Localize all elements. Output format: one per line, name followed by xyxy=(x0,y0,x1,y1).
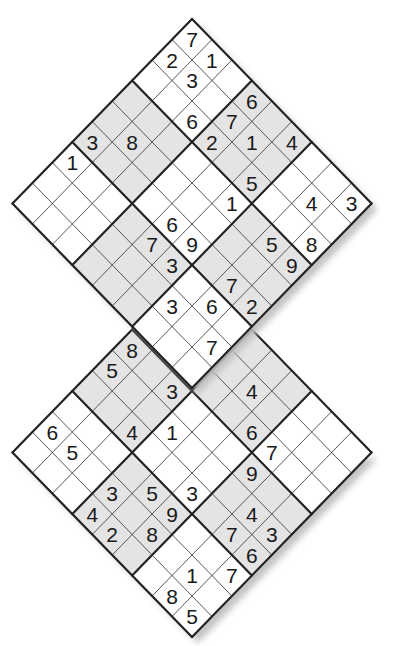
given-digit: 9 xyxy=(286,254,298,277)
given-digit: 5 xyxy=(106,359,118,382)
given-digit: 7 xyxy=(226,523,238,546)
given-digit: 3 xyxy=(166,380,178,403)
given-digit: 8 xyxy=(146,523,158,546)
given-digit: 1 xyxy=(226,192,238,215)
given-digit: 8 xyxy=(306,233,318,256)
given-digit: 4 xyxy=(306,192,318,215)
given-digit: 8 xyxy=(166,585,178,608)
given-digit: 6 xyxy=(246,544,258,567)
given-digit: 3 xyxy=(166,295,178,318)
given-digit: 7 xyxy=(146,233,158,256)
given-digit: 3 xyxy=(186,482,198,505)
given-digit: 5 xyxy=(186,605,198,628)
given-digit: 6 xyxy=(206,295,218,318)
given-digit: 4 xyxy=(246,380,258,403)
given-digit: 9 xyxy=(166,503,178,526)
given-digit: 2 xyxy=(106,523,118,546)
given-digit: 6 xyxy=(47,421,59,444)
given-digit: 2 xyxy=(206,131,218,154)
given-digit: 2 xyxy=(166,49,178,72)
given-digit: 3 xyxy=(86,131,98,154)
given-digit: 3 xyxy=(166,254,178,277)
given-digit: 2 xyxy=(246,295,258,318)
given-digit: 1 xyxy=(246,131,258,154)
given-digit: 3 xyxy=(106,482,118,505)
given-digit: 9 xyxy=(246,462,258,485)
given-digit: 4 xyxy=(246,503,258,526)
given-digit: 8 xyxy=(126,339,138,362)
given-digit: 5 xyxy=(146,482,158,505)
given-digit: 6 xyxy=(246,90,258,113)
given-digit: 3 xyxy=(266,523,278,546)
given-digit: 5 xyxy=(66,441,78,464)
given-digit: 4 xyxy=(86,503,98,526)
given-digit: 7 xyxy=(206,336,218,359)
given-digit: 6 xyxy=(186,110,198,133)
twin-diagonal-sudoku-board: 46783951434376597653814285 7164323714625… xyxy=(0,0,394,646)
given-digit: 7 xyxy=(226,110,238,133)
given-digit: 1 xyxy=(186,564,198,587)
given-digit: 1 xyxy=(206,49,218,72)
given-digit: 4 xyxy=(126,421,138,444)
given-digit: 7 xyxy=(226,274,238,297)
given-digit: 1 xyxy=(166,421,178,444)
given-digit: 5 xyxy=(246,172,258,195)
given-digit: 7 xyxy=(226,564,238,587)
given-digit: 9 xyxy=(186,233,198,256)
given-digit: 6 xyxy=(166,213,178,236)
given-digit: 4 xyxy=(286,131,298,154)
given-digit: 5 xyxy=(266,233,278,256)
given-digit: 8 xyxy=(126,131,138,154)
given-digit: 7 xyxy=(186,28,198,51)
given-digit: 3 xyxy=(346,192,358,215)
given-digit: 3 xyxy=(186,69,198,92)
given-digit: 6 xyxy=(246,421,258,444)
given-digit: 7 xyxy=(266,441,278,464)
given-digit: 1 xyxy=(66,151,78,174)
top-grid: 71643237146258159836972173637 xyxy=(12,19,371,388)
